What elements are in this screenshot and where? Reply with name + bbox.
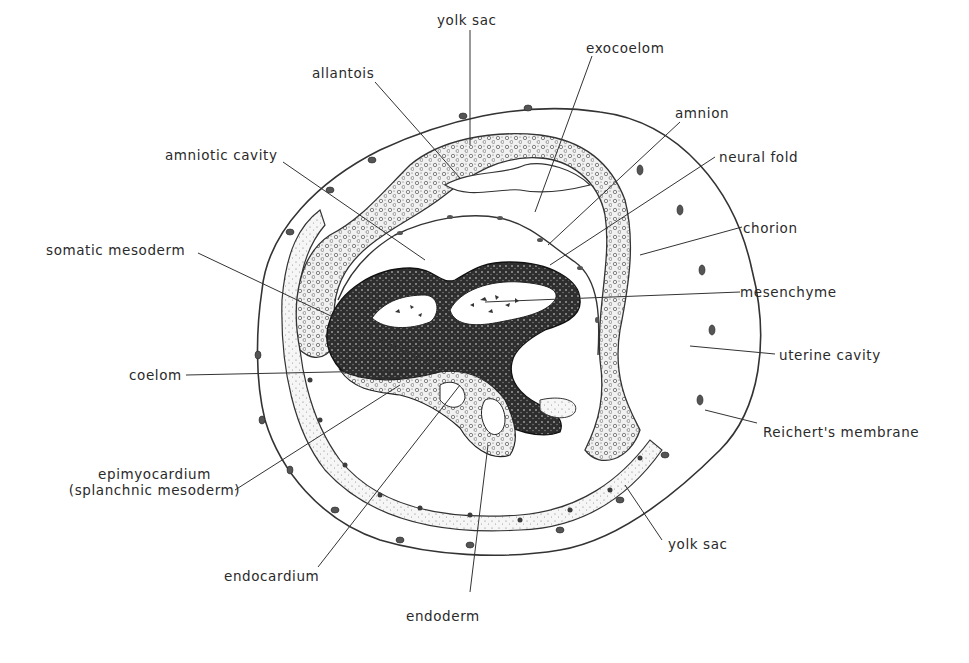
label-uterine-cavity: uterine cavity [779,347,881,363]
label-yolk-sac-top: yolk sac [437,12,497,28]
label-chorion: chorion [743,220,798,236]
label-amniotic-cavity: amniotic cavity [165,147,277,163]
label-amnion: amnion [675,105,729,121]
diagram-canvas: yolk sac allantois exocoelom amnion amni… [0,0,969,663]
label-exocoelom: exocoelom [586,40,664,56]
label-endocardium: endocardium [224,568,319,584]
label-mesenchyme: mesenchyme [740,284,837,300]
label-epimyocardium-line1: epimyocardium [62,466,247,482]
label-endoderm: endoderm [406,608,480,624]
label-allantois: allantois [312,65,374,81]
label-reicherts-membrane: Reichert's membrane [763,424,919,440]
label-neural-fold: neural fold [719,149,798,165]
label-yolk-sac-bottom: yolk sac [668,536,728,552]
label-epimyocardium-line2: (splanchnic mesoderm) [62,482,247,498]
label-somatic-mesoderm: somatic mesoderm [46,242,185,258]
label-coelom: coelom [129,367,182,383]
embryo-illustration [0,0,969,663]
label-epimyocardium: epimyocardium (splanchnic mesoderm) [62,466,247,498]
